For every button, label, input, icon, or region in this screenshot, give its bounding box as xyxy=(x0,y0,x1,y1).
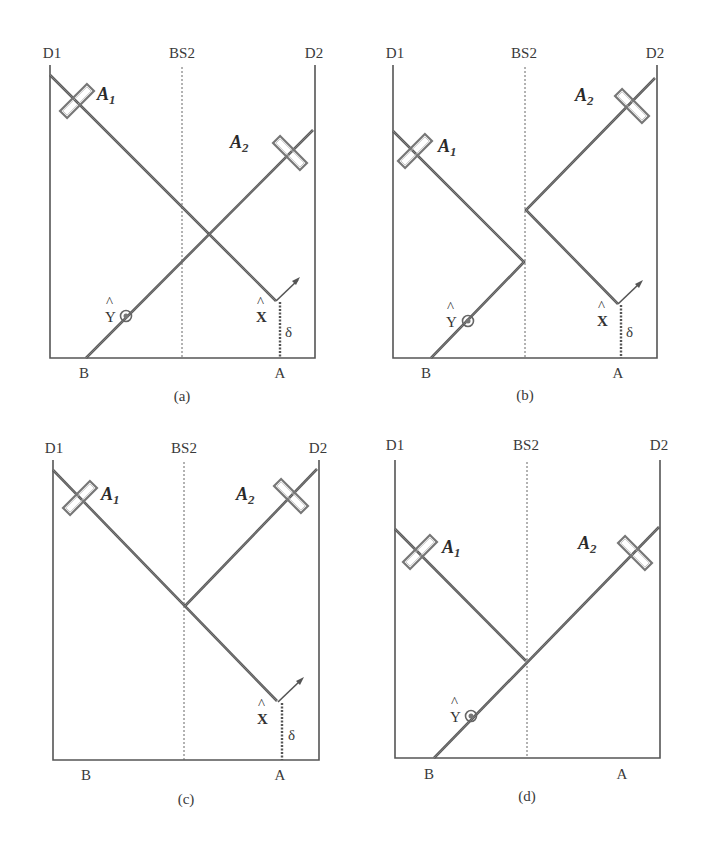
label-a: A xyxy=(613,365,624,381)
label-delta: δ xyxy=(626,324,633,340)
caption-b: (b) xyxy=(516,387,534,404)
label-a: A xyxy=(275,767,286,783)
label-b: B xyxy=(424,766,434,782)
x-polarization-arrow-icon xyxy=(618,283,640,304)
panel-c: D1 BS2 D2 A1 A2 X ^ δ B A (c) xyxy=(45,440,327,808)
detector-frame xyxy=(395,460,660,758)
detector-frame xyxy=(53,460,319,760)
label-d1: D1 xyxy=(43,45,61,61)
label-a2: A2 xyxy=(574,85,594,108)
label-y-hat: Y xyxy=(105,309,116,325)
label-a2: A2 xyxy=(229,132,249,155)
label-bs2: BS2 xyxy=(511,45,537,61)
label-a1: A1 xyxy=(100,484,120,507)
label-d2: D2 xyxy=(650,437,668,453)
label-d2: D2 xyxy=(305,45,323,61)
svg-text:^: ^ xyxy=(258,696,265,712)
label-a1: A1 xyxy=(437,136,457,159)
label-bs2: BS2 xyxy=(169,45,195,61)
panel-d: D1 BS2 D2 A1 A2 Y ^ B A (d) xyxy=(386,437,668,805)
label-a: A xyxy=(617,766,628,782)
beam-path-d2 xyxy=(526,78,655,304)
label-delta: δ xyxy=(285,324,292,340)
y-polarization-dot-icon xyxy=(463,316,474,327)
label-b: B xyxy=(81,767,91,783)
label-x-hat: X xyxy=(256,309,267,325)
svg-text:^: ^ xyxy=(106,294,113,310)
label-x-hat: X xyxy=(257,711,268,727)
label-y-hat: Y xyxy=(450,709,461,725)
svg-text:^: ^ xyxy=(257,294,264,310)
label-b: B xyxy=(421,365,431,381)
label-a: A xyxy=(275,365,286,381)
svg-text:^: ^ xyxy=(447,299,454,315)
x-polarization-arrow-icon xyxy=(278,680,301,702)
label-d1: D1 xyxy=(386,45,404,61)
label-d1: D1 xyxy=(45,440,63,456)
label-x-hat: X xyxy=(597,313,608,329)
analyzer-a2-icon xyxy=(615,89,649,123)
panel-a: D1 BS2 D2 A1 A2 Y ^ X ^ δ B A (a) xyxy=(43,45,323,405)
label-d1: D1 xyxy=(386,437,404,453)
label-bs2: BS2 xyxy=(171,440,197,456)
analyzer-a1-icon xyxy=(398,134,432,168)
label-d2: D2 xyxy=(646,45,664,61)
analyzer-a1-icon xyxy=(403,535,437,569)
y-polarization-dot-icon xyxy=(121,311,132,322)
caption-d: (d) xyxy=(518,788,536,805)
label-a2: A2 xyxy=(577,533,597,556)
label-a1: A1 xyxy=(96,84,116,107)
label-bs2: BS2 xyxy=(513,437,539,453)
caption-a: (a) xyxy=(174,388,191,405)
caption-c: (c) xyxy=(178,791,195,808)
beam-path-d1 xyxy=(393,131,524,358)
label-b: B xyxy=(79,365,89,381)
interferometer-figure: D1 BS2 D2 A1 A2 Y ^ X ^ δ B A (a) D1 BS2… xyxy=(0,0,706,843)
svg-text:^: ^ xyxy=(598,298,605,314)
svg-text:^: ^ xyxy=(451,694,458,710)
label-y-hat: Y xyxy=(446,314,457,330)
panel-b: D1 BS2 D2 A1 A2 Y ^ X ^ δ B A (b) xyxy=(386,45,664,404)
label-d2: D2 xyxy=(309,440,327,456)
label-a2: A2 xyxy=(235,484,255,507)
label-a1: A1 xyxy=(441,537,461,560)
label-delta: δ xyxy=(288,727,295,743)
